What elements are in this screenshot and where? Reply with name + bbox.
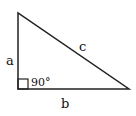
- side-a-label: a: [6, 53, 14, 68]
- right-angle-marker: [18, 79, 28, 89]
- right-triangle-diagram: a c b 90°: [0, 0, 136, 116]
- angle-label: 90°: [31, 76, 51, 89]
- side-b-label: b: [61, 96, 69, 111]
- side-c-label: c: [79, 39, 86, 54]
